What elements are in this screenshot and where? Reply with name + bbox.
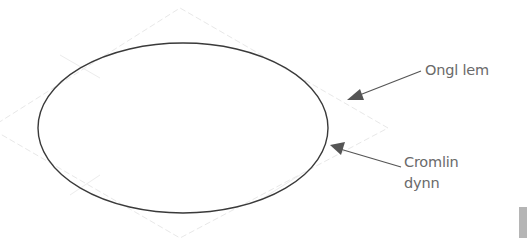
label-inner-line2: dynn bbox=[404, 173, 459, 194]
arrowhead-outer-icon bbox=[347, 89, 364, 100]
guide-diamond bbox=[0, 8, 388, 238]
label-outer: Ongl lem bbox=[425, 60, 489, 81]
diagram-canvas bbox=[0, 0, 527, 238]
corner-box bbox=[519, 207, 527, 238]
arrow-outer bbox=[357, 71, 421, 96]
arrowhead-inner-icon bbox=[330, 142, 345, 155]
arrow-inner bbox=[340, 149, 401, 167]
label-inner-line1: Cromlin bbox=[404, 152, 459, 173]
label-inner: Cromlin dynn bbox=[404, 152, 459, 194]
